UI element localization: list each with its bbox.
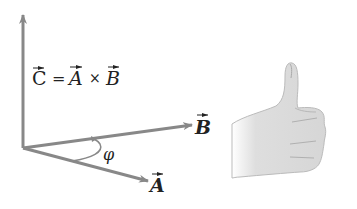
vector-a-label: A bbox=[148, 174, 165, 196]
cross-product-equation: C = A × B bbox=[32, 67, 120, 89]
cross-product-diagram: C = A × B B A φ bbox=[0, 0, 357, 209]
equation-c: C bbox=[32, 67, 47, 89]
diagram-canvas: C = A × B B A φ bbox=[0, 0, 357, 209]
equation-equals: = bbox=[52, 69, 65, 88]
equation-a: A bbox=[67, 67, 83, 89]
right-hand-thumbs-up-illustration bbox=[232, 63, 326, 178]
vector-b-label: B bbox=[194, 116, 211, 138]
equation-b: B bbox=[105, 67, 120, 89]
vector-a-arrow bbox=[23, 148, 148, 181]
angle-arc bbox=[72, 139, 101, 161]
angle-phi-label: φ bbox=[103, 145, 115, 164]
equation-times: × bbox=[89, 70, 101, 86]
